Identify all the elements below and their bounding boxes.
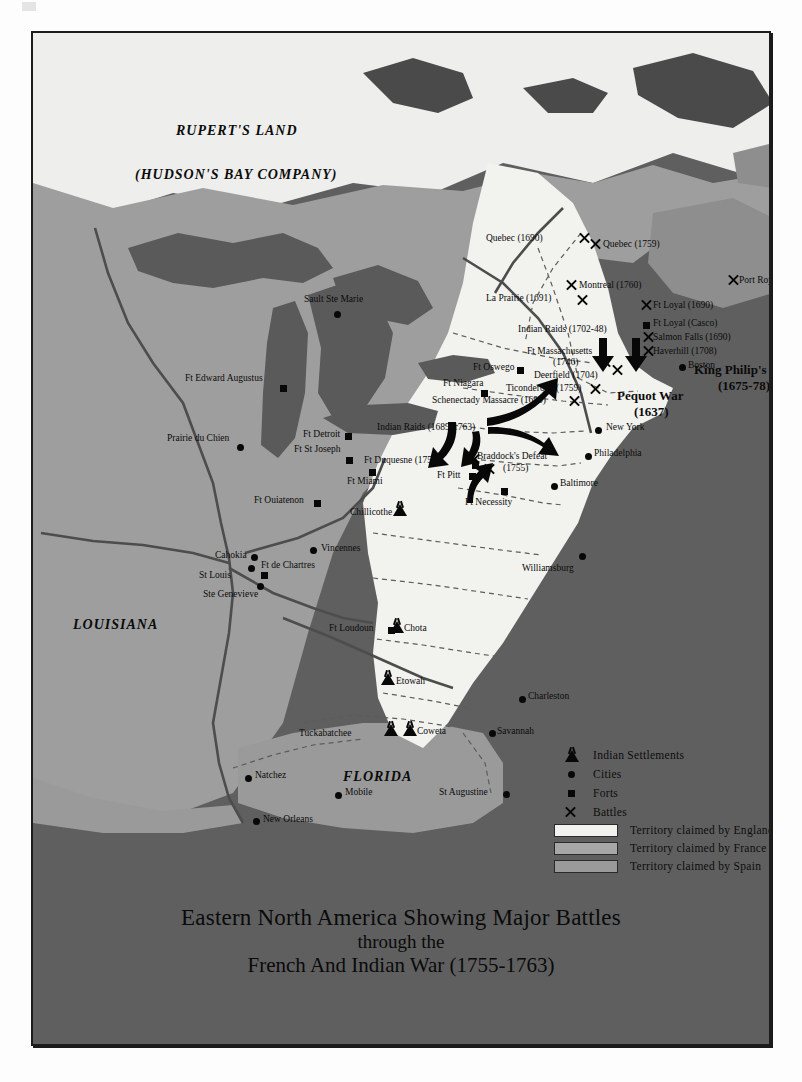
cross-icon <box>553 803 593 821</box>
tepee-icon <box>393 501 407 516</box>
city-marker <box>245 775 252 782</box>
war-label: King Philip's War <box>694 364 771 375</box>
legend-row-england: Territory claimed by England <box>553 821 771 839</box>
battle-marker <box>599 356 611 368</box>
battle-label: Indian Raids (1702-48) <box>518 324 607 335</box>
tepee-icon <box>381 670 395 685</box>
battle-label: Indian Raids (1689-1763) <box>377 422 475 433</box>
settlement-label: Chillicothe <box>350 507 392 518</box>
settlement-label: Tuckabatchee <box>299 728 351 739</box>
region-label: RUPERT'S LAND <box>176 125 298 136</box>
scan-artifact <box>22 2 36 11</box>
region-label: LOUISIANA <box>73 619 158 630</box>
fort-label: Ft Edward Augustus <box>185 373 263 384</box>
battle-marker <box>727 274 739 286</box>
fort-marker <box>345 433 352 440</box>
battle-marker <box>611 364 623 376</box>
city-marker <box>551 483 558 490</box>
city-marker <box>335 792 342 799</box>
battle-label: (1755) <box>503 463 528 474</box>
legend-row-battles: Battles <box>553 802 771 821</box>
city-marker <box>251 554 258 561</box>
fort-marker <box>369 469 376 476</box>
battle-label: (1746) <box>553 357 578 368</box>
square-icon <box>553 784 593 802</box>
map-page: RUPERT'S LAND (HUDSON'S BAY COMPANY) LOU… <box>0 0 802 1082</box>
fort-marker <box>280 385 287 392</box>
battle-marker <box>483 463 495 475</box>
city-label: St Louis <box>199 570 231 581</box>
city-label: Savannah <box>497 726 534 737</box>
city-label: New Orleans <box>263 814 313 825</box>
war-label: (1675-78) <box>718 380 770 391</box>
city-label: Ste Genevieve <box>203 589 258 600</box>
region-label: (HUDSON'S BAY COMPANY) <box>135 169 337 180</box>
fort-marker <box>261 572 268 579</box>
city-marker <box>253 818 260 825</box>
fort-label: Ft Duquesne (1758) <box>364 455 440 466</box>
fort-label: Ft Loyal (Casco) <box>653 318 717 329</box>
city-marker <box>679 364 686 371</box>
battle-label: Port Royal (1710) <box>739 275 771 286</box>
city-label: St Augustine <box>439 787 488 798</box>
city-marker <box>248 565 255 572</box>
battle-label: Quebec (1759) <box>603 239 660 250</box>
city-label: Williamsburg <box>522 563 574 574</box>
settlement-label: Coweta <box>417 726 446 737</box>
legend-label: Territory claimed by Spain <box>630 860 761 872</box>
fort-label: Ft Detroit <box>303 429 340 440</box>
fort-marker <box>517 367 524 374</box>
city-marker <box>595 427 602 434</box>
fort-label: Ft St Joseph <box>294 444 340 455</box>
fort-label: Ft Oswego <box>473 362 514 373</box>
legend-label: Territory claimed by France <box>630 842 767 854</box>
fort-marker <box>314 500 321 507</box>
legend-row-settlements: Indian Settlements <box>553 745 771 764</box>
england-swatch <box>554 824 618 837</box>
title-line-3: French And Indian War (1755-1763) <box>33 953 769 978</box>
battle-marker <box>589 238 601 250</box>
battle-label: Montreal (1760) <box>579 280 642 291</box>
city-marker <box>579 553 586 560</box>
fort-label: Ft Niagara <box>443 378 483 389</box>
battle-label: Quebec (1690) <box>486 233 543 244</box>
city-marker <box>585 453 592 460</box>
legend-label: Forts <box>593 787 618 799</box>
settlement-label: Etowah <box>396 676 425 687</box>
city-label: New York <box>606 422 645 433</box>
france-swatch <box>554 842 618 855</box>
city-label: Natchez <box>255 770 286 781</box>
city-label: Philadelphia <box>594 448 642 459</box>
city-marker <box>310 547 317 554</box>
legend-label: Indian Settlements <box>593 749 684 761</box>
fort-label: Ft Necessity <box>465 497 512 508</box>
battle-label: Ft Loyal (1690) <box>653 300 713 311</box>
legend-label: Battles <box>593 806 627 818</box>
fort-label: Ft Pitt <box>437 470 461 481</box>
city-label: Cahokia <box>215 550 247 561</box>
battle-label: Haverhill (1708) <box>653 346 717 357</box>
map-title: Eastern North America Showing Major Batt… <box>33 905 769 978</box>
map-frame: RUPERT'S LAND (HUDSON'S BAY COMPANY) LOU… <box>31 31 771 1046</box>
tepee-icon <box>390 618 404 633</box>
region-label: FLORIDA <box>343 771 412 782</box>
legend-row-cities: Cities <box>553 764 771 783</box>
legend: Indian Settlements Cities Forts Battles <box>553 745 771 875</box>
tepee-icon <box>403 721 417 736</box>
city-marker <box>489 730 496 737</box>
battle-marker <box>568 395 580 407</box>
legend-label: Territory claimed by England <box>630 824 771 836</box>
settlement-label: Chota <box>404 623 427 634</box>
battle-label: Salmon Falls (1690) <box>653 332 731 343</box>
city-label: Vincennes <box>321 543 361 554</box>
battle-label: Schenectady Massacre (1690) <box>432 395 546 406</box>
fort-marker <box>346 457 353 464</box>
legend-row-spain: Territory claimed by Spain <box>553 857 771 875</box>
legend-row-france: Territory claimed by France <box>553 839 771 857</box>
city-label: Prairie du Chien <box>167 433 229 444</box>
battle-marker <box>589 383 601 395</box>
circle-icon <box>553 765 593 783</box>
fort-label: Ft Miami <box>347 476 383 487</box>
fort-label: Ft Ouiatenon <box>254 495 304 506</box>
city-label: Sault Ste Marie <box>304 294 363 305</box>
